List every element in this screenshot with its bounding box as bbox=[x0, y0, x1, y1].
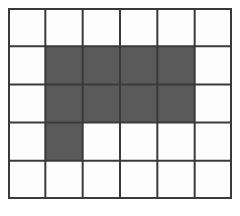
grid-cell-empty bbox=[195, 123, 232, 161]
grid-cell-empty bbox=[195, 46, 232, 84]
grid-cell-empty bbox=[157, 8, 194, 46]
shaded-grid-figure bbox=[8, 8, 232, 199]
grid-cell-shaded bbox=[83, 46, 120, 84]
grid-cell-empty bbox=[45, 8, 82, 46]
grid-cell-empty bbox=[195, 84, 232, 122]
grid-cell-empty bbox=[157, 123, 194, 161]
grid-cell-empty bbox=[8, 46, 45, 84]
grid-cell-empty bbox=[83, 161, 120, 199]
grid-svg bbox=[8, 8, 232, 199]
grid-cell-shaded bbox=[157, 84, 194, 122]
grid-cell-empty bbox=[83, 8, 120, 46]
grid-cell-shaded bbox=[45, 46, 82, 84]
grid-cell-shaded bbox=[120, 84, 157, 122]
grid-cell-shaded bbox=[157, 46, 194, 84]
grid-cell-shaded bbox=[83, 84, 120, 122]
grid-cell-shaded bbox=[120, 46, 157, 84]
grid-cell-empty bbox=[195, 8, 232, 46]
grid-cell-empty bbox=[120, 8, 157, 46]
grid-cell-empty bbox=[45, 161, 82, 199]
grid-cell-shaded bbox=[45, 123, 82, 161]
grid-cell-empty bbox=[195, 161, 232, 199]
figure-root bbox=[0, 0, 240, 216]
grid-cell-empty bbox=[8, 161, 45, 199]
grid-cell-empty bbox=[8, 84, 45, 122]
grid-cell-empty bbox=[120, 161, 157, 199]
grid-cell-shaded bbox=[45, 84, 82, 122]
grid-cell-empty bbox=[157, 161, 194, 199]
grid-cell-empty bbox=[83, 123, 120, 161]
grid-cell-empty bbox=[8, 123, 45, 161]
grid-cell-empty bbox=[120, 123, 157, 161]
grid-cell-empty bbox=[8, 8, 45, 46]
